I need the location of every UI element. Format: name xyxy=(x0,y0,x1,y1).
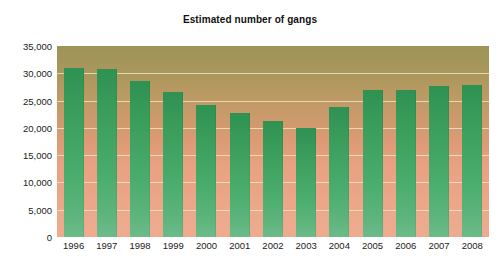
bar-slot xyxy=(157,46,190,237)
x-axis-tick-label: 1996 xyxy=(57,240,90,251)
chart-container: Estimated number of gangs 05,00010,00015… xyxy=(0,0,500,267)
bar-slot xyxy=(190,46,223,237)
y-axis-tick-label: 25,000 xyxy=(0,95,52,106)
bar xyxy=(363,90,383,237)
bar-slot xyxy=(323,46,356,237)
y-axis-tick-label: 15,000 xyxy=(0,150,52,161)
bar-slot xyxy=(422,46,455,237)
x-axis-tick-label: 2006 xyxy=(389,240,422,251)
x-axis-tick-label: 1997 xyxy=(90,240,123,251)
bar-slot xyxy=(123,46,156,237)
bar xyxy=(329,107,349,237)
bar-slot xyxy=(356,46,389,237)
bar xyxy=(263,121,283,237)
y-axis-tick-label: 35,000 xyxy=(0,41,52,52)
bar-slot xyxy=(456,46,489,237)
x-axis-tick-label: 2004 xyxy=(323,240,356,251)
y-axis: 05,00010,00015,00020,00025,00030,00035,0… xyxy=(0,46,52,237)
bar xyxy=(296,128,316,237)
bar-slot xyxy=(290,46,323,237)
x-axis-tick-label: 2007 xyxy=(422,240,455,251)
x-axis-tick-label: 1998 xyxy=(123,240,156,251)
bar xyxy=(196,105,216,237)
bar-slot xyxy=(389,46,422,237)
x-axis-tick-label: 2001 xyxy=(223,240,256,251)
plot-area xyxy=(57,46,489,237)
bar-slot xyxy=(57,46,90,237)
bar-series xyxy=(57,46,489,237)
bar xyxy=(230,113,250,237)
bar xyxy=(429,86,449,237)
bar xyxy=(97,69,117,237)
bar-slot xyxy=(223,46,256,237)
x-axis-tick-label: 2000 xyxy=(190,240,223,251)
bar xyxy=(130,81,150,237)
x-axis-tick-label: 2005 xyxy=(356,240,389,251)
chart-title: Estimated number of gangs xyxy=(0,14,500,25)
bar xyxy=(64,68,84,237)
bar xyxy=(396,90,416,237)
y-axis-tick-label: 30,000 xyxy=(0,68,52,79)
y-axis-tick-label: 0 xyxy=(0,232,52,243)
bar-slot xyxy=(256,46,289,237)
x-axis: 1996199719981999200020012002200320042005… xyxy=(57,240,489,251)
y-axis-tick-label: 20,000 xyxy=(0,122,52,133)
x-axis-tick-label: 2002 xyxy=(256,240,289,251)
y-axis-tick-label: 10,000 xyxy=(0,177,52,188)
x-axis-tick-label: 2003 xyxy=(290,240,323,251)
x-axis-tick-label: 1999 xyxy=(157,240,190,251)
y-axis-tick-label: 5,000 xyxy=(0,204,52,215)
x-axis-tick-label: 2008 xyxy=(456,240,489,251)
bar xyxy=(163,92,183,237)
bar-slot xyxy=(90,46,123,237)
bar xyxy=(462,85,482,237)
